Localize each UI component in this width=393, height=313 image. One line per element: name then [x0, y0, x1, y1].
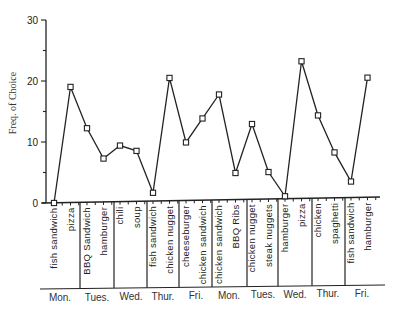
category-label: BBQ Ribs: [230, 205, 241, 249]
square-marker-icon: [365, 75, 370, 80]
square-marker-icon: [348, 179, 353, 184]
square-marker-icon: [332, 150, 337, 155]
category-label: pizza: [296, 203, 307, 227]
day-label: Fri.: [355, 288, 369, 299]
series-line: [51, 59, 370, 206]
chart: 0102030 fish sandwichpizzaBBQ Sandwichha…: [0, 0, 393, 313]
category-label: chicken sandwich: [213, 205, 224, 284]
category-label: hamburger: [98, 207, 109, 256]
day-label: Tues.: [85, 292, 110, 303]
y-axis-label: Freq. of Choice: [7, 71, 18, 134]
category-label: cheeseburger: [180, 205, 191, 267]
square-marker-icon: [183, 140, 188, 145]
day-label: Thur.: [317, 288, 340, 299]
category-label: chili: [114, 207, 125, 225]
category-label: chicken: [312, 203, 323, 237]
category-label: fish sandwich: [48, 208, 59, 269]
square-marker-icon: [51, 200, 56, 205]
square-marker-icon: [299, 59, 304, 64]
y-tick-label: 0: [32, 198, 38, 209]
data-line: [54, 61, 368, 203]
category-label: chicken sandwich: [197, 205, 208, 284]
y-tick-label: 10: [27, 137, 39, 148]
square-marker-icon: [167, 75, 172, 80]
square-marker-icon: [200, 116, 205, 121]
day-label: Mon.: [49, 292, 71, 303]
category-label: hamburger: [279, 204, 290, 253]
category-label: fish sandwich: [147, 206, 158, 267]
square-marker-icon: [216, 92, 221, 97]
square-marker-icon: [266, 169, 271, 174]
category-label: spaghetti: [329, 203, 340, 244]
square-marker-icon: [101, 156, 106, 161]
day-label: Tues.: [251, 289, 276, 300]
y-tick-label: 30: [27, 15, 39, 26]
square-marker-icon: [282, 194, 287, 199]
day-label: Mon.: [218, 290, 240, 301]
square-marker-icon: [134, 148, 139, 153]
category-label: chicken nugget: [164, 206, 175, 274]
day-label: Wed.: [119, 291, 142, 302]
category-label: steak nuggets: [263, 204, 274, 267]
y-axis: 0102030: [27, 15, 46, 209]
category-labels: fish sandwichpizzaBBQ Sandwichhamburgerc…: [48, 202, 373, 284]
day-labels: Mon.Tues.Wed.Thur.Fri.Mon.Tues.Wed.Thur.…: [49, 288, 369, 304]
square-marker-icon: [150, 190, 155, 195]
day-label: Thur.: [152, 291, 175, 302]
category-label: soup: [131, 206, 142, 228]
category-label: pizza: [65, 207, 76, 231]
y-tick-label: 20: [27, 76, 39, 87]
category-label: fish sandwich: [345, 202, 356, 263]
square-marker-icon: [68, 84, 73, 89]
square-marker-icon: [249, 121, 254, 126]
category-label: hamburger: [362, 202, 373, 251]
square-marker-icon: [233, 170, 238, 175]
category-label: chicken nugget: [246, 204, 257, 272]
day-label: Wed.: [283, 289, 306, 300]
square-marker-icon: [315, 113, 320, 118]
square-marker-icon: [84, 126, 89, 131]
square-marker-icon: [117, 143, 122, 148]
day-label: Fri.: [189, 290, 203, 301]
category-label: BBQ Sandwich: [81, 207, 92, 275]
